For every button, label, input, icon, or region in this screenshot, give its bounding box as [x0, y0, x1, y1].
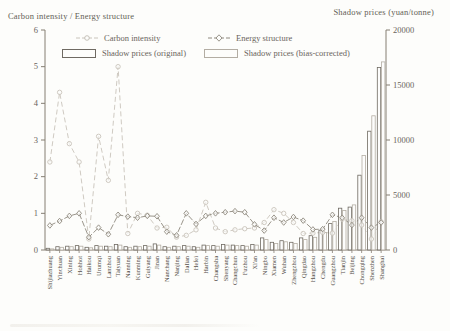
right-axis-tick-label: 5000 — [393, 190, 410, 200]
carbon-intensity-marker — [96, 134, 100, 138]
carbon-intensity-marker — [369, 237, 373, 241]
x-category-label: Yinchuan — [56, 255, 63, 280]
bar-shadow-original — [95, 246, 98, 250]
carbon-intensity-marker — [330, 231, 334, 235]
carbon-intensity-marker — [67, 141, 71, 145]
bar-shadow-original — [212, 246, 215, 250]
x-category-label: Jinan — [153, 255, 160, 269]
bar-shadow-bias-corrected — [274, 243, 277, 250]
bar-shadow-bias-corrected — [187, 246, 190, 250]
bar-shadow-bias-corrected — [128, 247, 131, 250]
bar-shadow-bias-corrected — [216, 246, 219, 250]
legend-label: Shadow prices (bias-corrected) — [244, 48, 350, 58]
legend-label: Energy structure — [236, 33, 292, 43]
x-category-label: Tianjin — [339, 255, 346, 274]
bar-shadow-original — [75, 246, 78, 250]
carbon-intensity-marker — [155, 226, 159, 230]
carbon-intensity-marker — [359, 223, 363, 227]
carbon-intensity-marker — [77, 160, 81, 164]
energy-structure-marker — [116, 212, 121, 218]
x-category-label: Hefei — [192, 256, 199, 270]
bar-shadow-bias-corrected — [99, 246, 102, 250]
carbon-intensity-marker — [184, 233, 188, 237]
bar-shadow-bias-corrected — [50, 249, 53, 250]
energy-structure-marker — [272, 215, 277, 221]
bar-shadow-original — [299, 238, 302, 250]
bar-shadow-bias-corrected — [148, 246, 151, 250]
left-axis-tick-label: 0 — [34, 245, 38, 255]
x-category-label: Hohhot — [76, 256, 83, 275]
x-category-label: Beijing — [348, 255, 355, 275]
carbon-intensity-marker — [106, 178, 110, 182]
bar-shadow-bias-corrected — [255, 245, 258, 250]
x-category-label: Shijiazhuang — [46, 255, 53, 289]
bar-shadow-original — [270, 242, 273, 250]
bar-shadow-original — [358, 175, 361, 250]
carbon-intensity-marker — [204, 200, 208, 204]
bar-shadow-original — [163, 247, 166, 250]
x-category-label: Fuzhou — [241, 255, 248, 275]
energy-structure-marker — [164, 229, 169, 235]
bar-shadow-original — [221, 245, 224, 251]
bar-shadow-bias-corrected — [177, 247, 180, 250]
bar-shadow-original — [309, 236, 312, 250]
legend-label: Carbon intensity — [104, 33, 160, 43]
bar-shadow-original — [124, 247, 127, 250]
energy-structure-marker — [213, 211, 218, 217]
carbon-intensity-marker — [213, 226, 217, 230]
energy-structure-marker — [223, 209, 228, 215]
bar-shadow-bias-corrected — [313, 237, 316, 250]
x-category-label: Guiyang — [144, 255, 151, 278]
x-category-label: Xi'an — [251, 255, 258, 269]
x-category-label: Xiamen — [270, 255, 277, 276]
bar-shadow-bias-corrected — [119, 245, 122, 250]
x-category-label: Nanjing — [173, 255, 180, 276]
energy-structure-marker — [233, 208, 238, 214]
x-category-label: Xining — [66, 255, 73, 274]
bar-shadow-bias-corrected — [333, 221, 336, 250]
x-category-label: Taiyuan — [114, 255, 121, 276]
left-axis-tick-label: 3 — [34, 135, 38, 145]
carbon-intensity-marker — [243, 227, 247, 231]
bar-shadow-bias-corrected — [294, 243, 297, 250]
left-axis-tick-label: 1 — [34, 208, 38, 218]
x-category-label: Changsha — [212, 256, 219, 281]
x-category-label: Ningbo — [261, 256, 268, 275]
figure-canvas: Carbon intensity / Energy structure Shad… — [0, 0, 450, 331]
faint-caption-remnant — [10, 324, 260, 327]
x-category-label: Shenzhen — [368, 255, 375, 281]
x-category-label: Guangzhou — [329, 255, 336, 285]
bar-shadow-bias-corrected — [235, 246, 238, 250]
carbon-intensity-marker — [57, 90, 61, 94]
bar-shadow-bias-corrected — [70, 247, 73, 250]
carbon-intensity-marker — [282, 211, 286, 215]
bar-shadow-original — [280, 241, 283, 250]
carbon-intensity-marker — [272, 207, 276, 211]
x-category-label: Nanchang — [163, 255, 170, 282]
shadow-original-bar-icon — [62, 49, 96, 58]
bar-shadow-bias-corrected — [167, 247, 170, 250]
bar-shadow-bias-corrected — [60, 247, 63, 250]
bar-shadow-original — [329, 224, 332, 250]
energy-structure-marker — [291, 214, 296, 220]
carbon-intensity-marker — [48, 160, 52, 164]
x-category-label: Hangzhou — [309, 255, 316, 282]
legend-item-shadow-original: Shadow prices (original) — [62, 48, 186, 58]
bar-shadow-original — [338, 208, 341, 250]
bar-shadow-bias-corrected — [265, 240, 268, 250]
left-axis-tick-label: 6 — [34, 25, 38, 35]
carbon-intensity-marker — [223, 229, 227, 233]
energy-structure-marker — [125, 214, 130, 220]
x-category-label: Kunming — [134, 255, 141, 280]
energy-structure-marker — [67, 213, 72, 219]
bar-shadow-bias-corrected — [304, 240, 307, 250]
carbon-intensity-marker — [291, 220, 295, 224]
bar-shadow-original — [192, 247, 195, 250]
x-category-label: Changchun — [231, 255, 238, 285]
x-category-label: Harbin — [202, 255, 209, 274]
carbon-intensity-marker — [126, 231, 130, 235]
bar-shadow-original — [56, 247, 59, 250]
x-category-label: Nanning — [124, 255, 131, 278]
bar-shadow-bias-corrected — [157, 245, 160, 250]
bar-shadow-bias-corrected — [323, 232, 326, 250]
